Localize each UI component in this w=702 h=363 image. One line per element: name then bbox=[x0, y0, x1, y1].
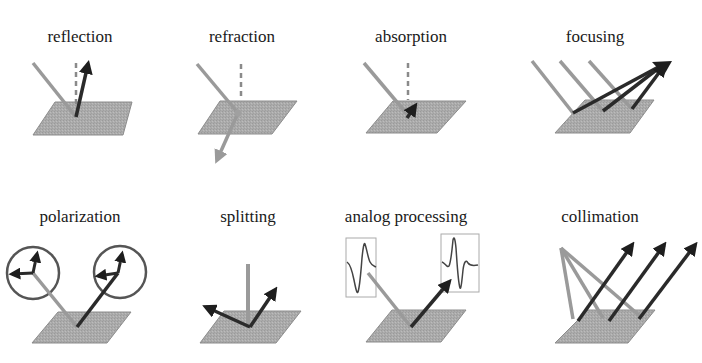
metasurface-plate bbox=[33, 102, 132, 135]
incident-polarization-vector-v bbox=[33, 254, 37, 273]
metasurface-plate bbox=[555, 100, 654, 133]
panel-focusing bbox=[532, 61, 672, 133]
panel-collimation bbox=[555, 245, 695, 343]
interaction-point bbox=[235, 110, 242, 117]
incident-ray bbox=[364, 63, 407, 114]
metasurface-plate bbox=[366, 310, 466, 342]
panel-refraction bbox=[197, 64, 297, 160]
collimated-ray-3-arrow bbox=[639, 245, 695, 319]
polarization-circle-outgoing bbox=[94, 246, 146, 298]
metasurface-plate bbox=[198, 101, 297, 134]
diagram-graphics bbox=[0, 0, 702, 363]
panel-reflection bbox=[33, 63, 132, 135]
panel-absorption bbox=[364, 63, 466, 133]
outgoing-polarization-vector-v bbox=[118, 254, 122, 273]
incident-polarization-vector-h bbox=[12, 273, 33, 274]
metasurface-plate bbox=[32, 312, 131, 343]
panel-polarization bbox=[7, 246, 146, 343]
metasurface-functions-diagram: reflection refraction absorption focusin… bbox=[0, 0, 702, 363]
metasurface-plate bbox=[366, 101, 466, 133]
panel-analog-processing bbox=[346, 234, 479, 342]
diverging-ray-3 bbox=[561, 248, 640, 316]
panel-splitting bbox=[200, 264, 301, 343]
